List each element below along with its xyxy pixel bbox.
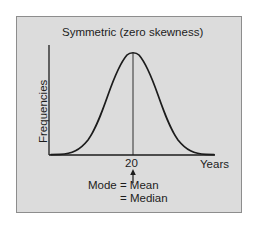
mode-mean-annotation: Mode = Mean [88, 180, 159, 192]
chart-title: Symmetric (zero skewness) [62, 27, 203, 39]
figure-container: Symmetric (zero skewness) Frequencies 20… [0, 0, 260, 232]
x-axis-label: Years [200, 159, 229, 171]
distribution-curve [51, 53, 214, 155]
median-annotation: = Median [120, 193, 168, 205]
x-axis-tick-label: 20 [125, 158, 138, 170]
y-axis-label: Frequencies [38, 80, 50, 143]
